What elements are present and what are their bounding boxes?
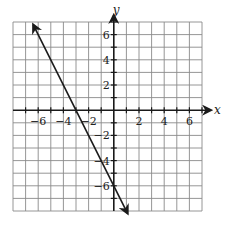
y-tick-label: 2 (103, 79, 110, 92)
y-tick-label: 6 (103, 29, 110, 42)
x-tick-label: −4 (55, 115, 71, 128)
y-tick-label: −2 (94, 129, 110, 142)
x-tick-label: −6 (30, 115, 46, 128)
x-tick-label: 2 (136, 115, 143, 128)
x-tick-label: −2 (80, 115, 96, 128)
x-tick-label: 6 (186, 115, 193, 128)
y-axis-label: y (112, 3, 120, 17)
coordinate-plane: −6−4−2246−6−4−2246 x y (0, 0, 227, 225)
y-tick-label: −6 (94, 180, 110, 193)
x-axis-label: x (214, 103, 221, 117)
x-tick-label: 4 (161, 115, 168, 128)
y-tick-label: 4 (103, 54, 110, 67)
